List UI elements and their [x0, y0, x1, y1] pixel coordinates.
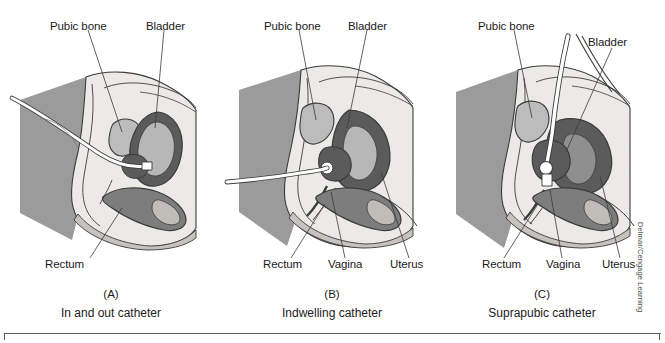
label-bladder-b: Bladder — [348, 20, 387, 33]
divider-tick-right — [659, 333, 660, 340]
panel-a — [0, 0, 222, 325]
catheter-tip — [142, 162, 152, 170]
panel-b-illustration — [227, 66, 417, 248]
caption-text-a: In and out catheter — [0, 306, 222, 320]
panel-b — [221, 0, 443, 325]
caption-letter-c: (C) — [442, 288, 642, 300]
catheterization-figure: Pubic bone Bladder Rectum (A) In and out… — [0, 0, 665, 343]
label-rectum-b: Rectum — [263, 258, 302, 271]
label-uterus-b: Uterus — [390, 258, 423, 271]
label-rectum-a: Rectum — [45, 258, 84, 271]
caption-letter-b: (B) — [221, 288, 443, 300]
panel-a-illustration — [12, 72, 196, 250]
label-vagina-b: Vagina — [328, 258, 362, 271]
catheter-stem — [542, 174, 552, 186]
label-bladder-c: Bladder — [588, 36, 627, 49]
panel-c-illustration — [456, 34, 634, 248]
label-bladder-a: Bladder — [146, 20, 185, 33]
label-pubic-bone-b: Pubic bone — [264, 20, 321, 33]
label-uterus-c: Uterus — [602, 258, 635, 271]
label-pubic-bone-c: Pubic bone — [478, 20, 535, 33]
divider-tick-left — [4, 333, 5, 340]
caption-letter-a: (A) — [0, 288, 222, 300]
caption-text-b: Indwelling catheter — [221, 306, 443, 320]
panel-c — [442, 0, 664, 325]
label-pubic-bone-a: Pubic bone — [50, 20, 107, 33]
retention-balloon — [540, 162, 553, 175]
label-vagina-c: Vagina — [546, 258, 580, 271]
copyright-credit: Delmar/Cengage Learning — [636, 222, 645, 312]
bottom-divider — [4, 333, 661, 334]
caption-text-c: Suprapubic catheter — [442, 306, 642, 320]
label-rectum-c: Rectum — [482, 258, 521, 271]
